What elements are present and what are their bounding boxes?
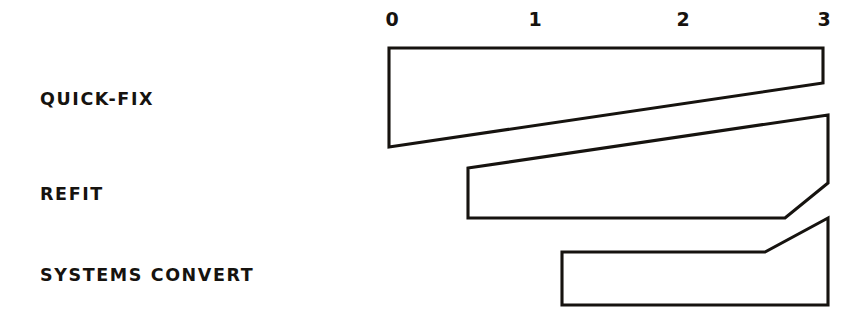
- axis-tick-1: 1: [528, 8, 541, 30]
- row-label-quick-fix: QUICK-FIX: [40, 89, 154, 109]
- row-label-systems-convert: SYSTEMS CONVERT: [40, 265, 254, 285]
- timeline-chart: 0 1 2 3 QUICK-FIX REFIT SYSTEMS CONVERT: [0, 0, 868, 327]
- bar-refit: [468, 115, 828, 218]
- bars-group: [389, 48, 828, 305]
- bar-systems-convert: [562, 218, 828, 305]
- axis-tick-3: 3: [817, 8, 830, 30]
- chart-root: 0 1 2 3 QUICK-FIX REFIT SYSTEMS CONVERT: [0, 0, 868, 327]
- axis-tick-labels: 0 1 2 3: [385, 8, 830, 30]
- axis-tick-2: 2: [676, 8, 689, 30]
- axis-tick-0: 0: [385, 8, 398, 30]
- row-labels: QUICK-FIX REFIT SYSTEMS CONVERT: [40, 89, 254, 285]
- row-label-refit: REFIT: [40, 184, 104, 204]
